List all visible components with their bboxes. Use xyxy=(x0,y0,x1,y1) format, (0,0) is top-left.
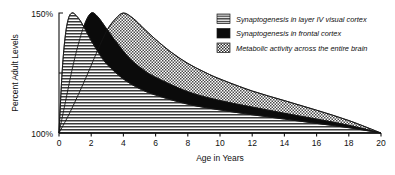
legend-label: Synaptogenesis in frontal cortex xyxy=(236,29,341,38)
legend-label: Metabolic activity across the entire bra… xyxy=(236,44,367,53)
y-tick-label-150: 150% xyxy=(31,9,53,19)
chart-container: 150% 100% Percent Adult Levels 024681012… xyxy=(0,0,395,175)
x-axis-tick-label: 0 xyxy=(57,138,62,148)
x-axis-tick-label: 2 xyxy=(89,138,94,148)
legend-swatch-horizontal-lines xyxy=(217,14,230,24)
x-axis-tick-label: 20 xyxy=(376,138,386,148)
x-axis-tick-label: 4 xyxy=(121,138,126,148)
legend-label: Synaptogenesis in layer IV visual cortex xyxy=(236,15,367,24)
y-tick-label-100: 100% xyxy=(31,129,53,139)
x-axis-tick-label: 14 xyxy=(280,138,290,148)
y-axis-title: Percent Adult Levels xyxy=(10,34,20,112)
x-axis-title: Age in Years xyxy=(196,153,244,163)
x-axis-tick-label: 10 xyxy=(215,138,225,148)
legend-swatch-checkerboard xyxy=(217,43,230,53)
x-axis-tick-label: 16 xyxy=(312,138,322,148)
x-axis-tick-label: 6 xyxy=(153,138,158,148)
x-axis-tick-label: 18 xyxy=(344,138,354,148)
x-axis-tick-label: 12 xyxy=(247,138,257,148)
legend-swatch-solid-black xyxy=(217,29,230,39)
brain-development-chart: 150% 100% Percent Adult Levels 024681012… xyxy=(0,0,395,175)
x-axis-tick-label: 8 xyxy=(185,138,190,148)
